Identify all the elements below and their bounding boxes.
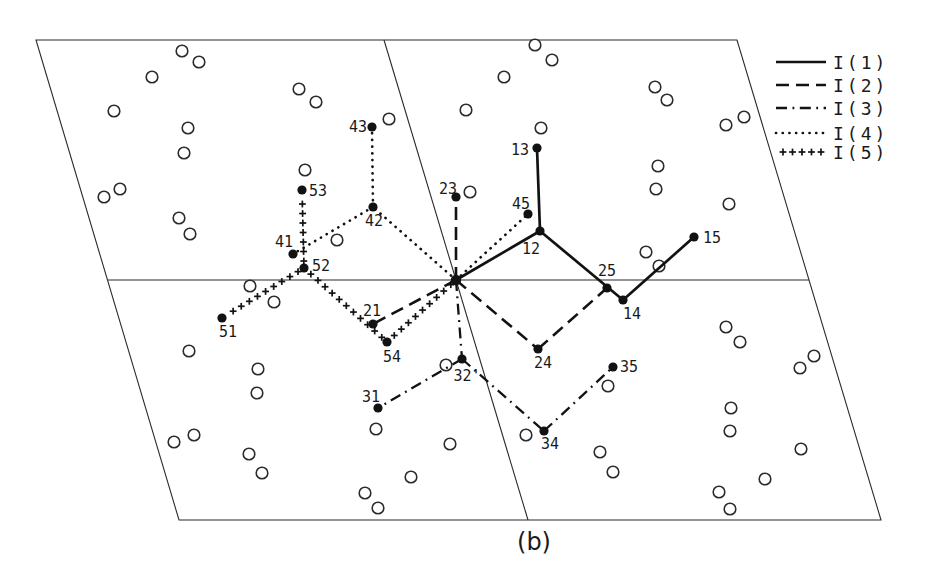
bond-origin-45 xyxy=(456,214,528,280)
legend-sample-plus xyxy=(780,149,825,156)
molecule-circle xyxy=(383,113,395,125)
atom-15 xyxy=(689,232,698,241)
bond-24-25 xyxy=(538,288,607,349)
molecule-circle xyxy=(607,466,619,478)
molecule-circle xyxy=(183,345,195,357)
chain-I(5) xyxy=(230,201,454,341)
atom-label-54: 54 xyxy=(383,348,401,366)
atom-label-23: 23 xyxy=(439,180,457,198)
atom-label-12: 12 xyxy=(522,240,540,258)
atom-label-41: 41 xyxy=(275,233,293,251)
molecule-circle xyxy=(661,94,673,106)
molecule-circle xyxy=(178,147,190,159)
molecule-circle xyxy=(244,280,256,292)
molecule-circle xyxy=(649,81,661,93)
molecule-circle xyxy=(444,438,456,450)
legend-label: I(3) xyxy=(833,98,888,119)
molecule-circle xyxy=(405,471,417,483)
atom-label-53: 53 xyxy=(309,182,327,200)
molecule-circle xyxy=(193,56,205,68)
molecule-circle xyxy=(650,183,662,195)
bond-14-15 xyxy=(623,237,694,300)
chain-I(2) xyxy=(373,197,607,349)
molecule-circle xyxy=(738,111,750,123)
molecule-circle xyxy=(535,122,547,134)
molecule-circle xyxy=(720,119,732,131)
molecule-circle xyxy=(602,380,614,392)
molecule-circle xyxy=(98,191,110,203)
molecule-circle xyxy=(464,186,476,198)
molecule-circle xyxy=(594,446,606,458)
atom-21 xyxy=(368,319,377,328)
atom-42 xyxy=(368,202,377,211)
atom-label-24: 24 xyxy=(534,354,552,372)
molecule-circle xyxy=(108,105,120,117)
legend-label: I(5) xyxy=(833,142,888,163)
molecule-circle xyxy=(268,296,280,308)
molecule-circle xyxy=(370,423,382,435)
atom-label-34: 34 xyxy=(541,435,559,453)
atom-label-42: 42 xyxy=(365,212,383,230)
atom-label-35: 35 xyxy=(620,358,638,376)
bond-origin-42 xyxy=(373,207,456,280)
legend: I(1)I(2)I(3)I(4)I(5) xyxy=(776,52,888,163)
molecule-circle xyxy=(252,363,264,375)
legend-row-I(5): I(5) xyxy=(780,142,889,163)
legend-label: I(4) xyxy=(833,123,888,144)
molecule-circle xyxy=(331,234,343,246)
atom-32p xyxy=(457,354,466,363)
molecule-circle xyxy=(182,122,194,134)
bond-origin-24 xyxy=(456,280,538,349)
atom-53 xyxy=(297,185,306,194)
legend-row-I(4): I(4) xyxy=(776,123,888,144)
molecule-circle xyxy=(724,503,736,515)
atom-origin xyxy=(451,275,461,285)
atom-51 xyxy=(217,313,226,322)
subfigure-caption: (b) xyxy=(517,528,551,556)
molecule-circle xyxy=(498,71,510,83)
molecule-circle xyxy=(173,212,185,224)
atom-label-43: 43 xyxy=(349,118,367,136)
bond-12-13 xyxy=(537,148,540,231)
molecule-circle xyxy=(168,436,180,448)
molecule-circle xyxy=(725,402,737,414)
molecule-circle xyxy=(640,246,652,258)
molecule-circle xyxy=(794,362,806,374)
molecule-circle xyxy=(529,39,541,51)
molecule-circle xyxy=(460,104,472,116)
molecule-circle xyxy=(310,96,322,108)
molecule-circle xyxy=(184,228,196,240)
atom-label-15: 15 xyxy=(703,229,721,247)
figure-canvas: 12131415212324253132'3435414243455152535… xyxy=(0,0,934,579)
molecule-circle xyxy=(372,502,384,514)
molecule-circle xyxy=(723,198,735,210)
molecule-circle xyxy=(808,350,820,362)
molecule-circle xyxy=(359,487,371,499)
atom-label-52: 52 xyxy=(312,257,330,275)
atom-54 xyxy=(382,337,391,346)
crystal-structure-figure: 12131415212324253132'3435414243455152535… xyxy=(0,0,934,579)
atom-label-32p: 32' xyxy=(453,367,480,385)
legend-row-I(3): I(3) xyxy=(776,98,888,119)
molecule-circle xyxy=(251,387,263,399)
molecule-circle xyxy=(759,473,771,485)
bond-52-53 xyxy=(299,201,307,265)
molecule-circle xyxy=(440,359,452,371)
atom-label-14: 14 xyxy=(623,305,641,323)
atom-25 xyxy=(602,283,611,292)
legend-label: I(1) xyxy=(833,52,888,73)
molecule-circle xyxy=(724,425,736,437)
molecule-circle xyxy=(734,336,746,348)
molecule-circle xyxy=(146,71,158,83)
atom-13 xyxy=(532,143,541,152)
molecule-circle xyxy=(256,467,268,479)
molecule-circle xyxy=(176,45,188,57)
molecule-circle xyxy=(795,443,807,455)
molecule-circle xyxy=(299,164,311,176)
atom-label-25: 25 xyxy=(598,262,616,280)
molecule-circle xyxy=(188,429,200,441)
legend-row-I(1): I(1) xyxy=(776,52,888,73)
atom-35 xyxy=(608,362,617,371)
molecule-circle xyxy=(114,183,126,195)
molecule-circle xyxy=(652,160,664,172)
